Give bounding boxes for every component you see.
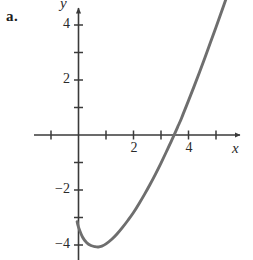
x-axis-label: x (232, 140, 239, 157)
y-axis-label: y (60, 0, 67, 12)
y-tick-label-4: 4 (54, 16, 70, 32)
coordinate-plot (0, 0, 253, 260)
y-tick-label-2: 2 (54, 71, 70, 87)
function-curve (77, 0, 232, 247)
graph-figure: a. (0, 0, 253, 260)
y-tick-label-neg4: −4 (44, 236, 70, 252)
x-tick-label-2: 2 (127, 140, 141, 156)
y-tick-label-neg2: −2 (44, 181, 70, 197)
x-tick-label-4: 4 (182, 140, 196, 156)
